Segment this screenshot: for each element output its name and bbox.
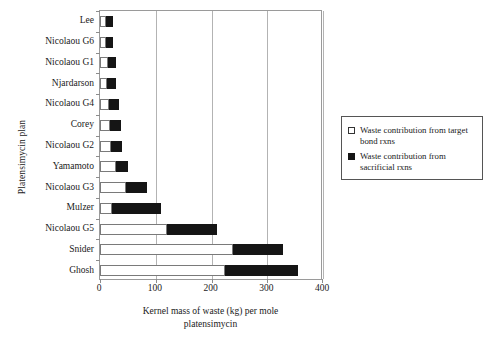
- bar-segment-target-bond: [100, 78, 107, 89]
- y-axis-label-nicolaou-g5: Nicolaou G5: [6, 223, 94, 233]
- bar-yamamoto: [100, 161, 323, 172]
- bar-segment-sacrificial: [111, 141, 122, 152]
- y-tick-1: [96, 32, 100, 33]
- bar-lee: [100, 16, 323, 27]
- y-tick-5: [96, 115, 100, 116]
- bar-nicolaou-g5: [100, 224, 323, 235]
- y-axis-label-nicolaou-g6: Nicolaou G6: [6, 36, 94, 46]
- y-tick-2: [96, 53, 100, 54]
- bar-segment-target-bond: [100, 120, 110, 131]
- bar-segment-target-bond: [100, 141, 111, 152]
- y-axis-label-corey: Corey: [6, 119, 94, 129]
- plot-area: [99, 10, 322, 280]
- black-square-icon: [348, 153, 355, 160]
- bar-nicolaou-g2: [100, 141, 323, 152]
- y-axis-label-nicolaou-g2: Nicolaou G2: [6, 140, 94, 150]
- y-axis-label-nicolaou-g4: Nicolaou G4: [6, 98, 94, 108]
- bar-segment-target-bond: [100, 99, 109, 110]
- y-axis-label-nicolaou-g3: Nicolaou G3: [6, 182, 94, 192]
- chart-legend: Waste contribution from target bond rxns…: [341, 116, 483, 180]
- y-axis-label-nicolaou-g1: Nicolaou G1: [6, 57, 94, 67]
- x-tick-label-100: 100: [135, 283, 175, 293]
- y-tick-10: [96, 219, 100, 220]
- bar-segment-target-bond: [100, 57, 108, 68]
- y-tick-7: [96, 156, 100, 157]
- y-tick-9: [96, 198, 100, 199]
- bar-segment-target-bond: [100, 244, 233, 255]
- legend-label: Waste contribution from sacrificial rxns: [360, 151, 475, 172]
- bar-segment-sacrificial: [106, 16, 113, 27]
- bar-segment-sacrificial: [233, 244, 283, 255]
- y-tick-0: [96, 11, 100, 12]
- chart-figure: Platensimycin plan LeeNicolaou G6Nicolao…: [0, 0, 488, 344]
- bar-corey: [100, 120, 323, 131]
- bar-segment-sacrificial: [110, 120, 121, 131]
- x-axis-title: Kernel mass of waste (kg) per mole plate…: [99, 305, 322, 331]
- bar-nicolaou-g1: [100, 57, 323, 68]
- bar-segment-target-bond: [100, 203, 112, 214]
- x-axis-title-line-1: Kernel mass of waste (kg) per mole: [99, 305, 322, 318]
- legend-item-target-bond: Waste contribution from target bond rxns: [348, 125, 475, 146]
- gridline-x-400: [323, 11, 324, 279]
- y-tick-8: [96, 177, 100, 178]
- x-tick-label-400: 400: [302, 283, 342, 293]
- y-axis-label-mulzer: Mulzer: [6, 202, 94, 212]
- bar-nicolaou-g6: [100, 37, 323, 48]
- y-axis-label-yamamoto: Yamamoto: [6, 161, 94, 171]
- bar-segment-sacrificial: [225, 265, 298, 276]
- x-tick-label-300: 300: [246, 283, 286, 293]
- bar-segment-target-bond: [100, 182, 126, 193]
- bar-segment-sacrificial: [108, 57, 116, 68]
- bar-segment-sacrificial: [107, 78, 116, 89]
- y-tick-12: [96, 260, 100, 261]
- y-tick-4: [96, 94, 100, 95]
- bar-segment-sacrificial: [106, 37, 113, 48]
- y-axis-label-ghosh: Ghosh: [6, 265, 94, 275]
- y-tick-6: [96, 136, 100, 137]
- bar-nicolaou-g4: [100, 99, 323, 110]
- bar-segment-sacrificial: [116, 161, 128, 172]
- y-tick-3: [96, 73, 100, 74]
- y-axis-category-labels: LeeNicolaou G6Nicolaou G1NjardarsonNicol…: [6, 10, 94, 280]
- bar-snider: [100, 244, 323, 255]
- white-square-icon: [348, 127, 355, 134]
- x-tick-label-0: 0: [79, 283, 119, 293]
- bar-ghosh: [100, 265, 323, 276]
- legend-label: Waste contribution from target bond rxns: [360, 125, 475, 146]
- bar-njardarson: [100, 78, 323, 89]
- bar-segment-target-bond: [100, 161, 116, 172]
- legend-item-sacrificial: Waste contribution from sacrificial rxns: [348, 151, 475, 172]
- bar-segment-target-bond: [100, 224, 167, 235]
- bar-segment-sacrificial: [167, 224, 217, 235]
- bar-segment-sacrificial: [126, 182, 147, 193]
- bar-segment-sacrificial: [109, 99, 118, 110]
- y-axis-label-snider: Snider: [6, 244, 94, 254]
- bar-nicolaou-g3: [100, 182, 323, 193]
- y-axis-label-njardarson: Njardarson: [6, 78, 94, 88]
- bar-mulzer: [100, 203, 323, 214]
- bar-segment-sacrificial: [112, 203, 161, 214]
- y-axis-label-lee: Lee: [6, 15, 94, 25]
- bar-segment-target-bond: [100, 265, 225, 276]
- y-tick-11: [96, 239, 100, 240]
- x-tick-label-200: 200: [191, 283, 231, 293]
- x-axis-title-line-2: platensimycin: [99, 318, 322, 331]
